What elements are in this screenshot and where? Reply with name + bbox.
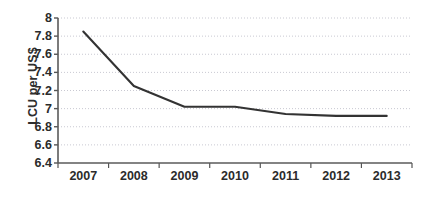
gridlines	[54, 18, 412, 163]
x-axis-tick-label: 2010	[210, 170, 261, 190]
x-axis-tick-label: 2007	[58, 170, 109, 190]
x-axis-tick-label: 2011	[260, 170, 311, 190]
x-axis-tick-label: 2008	[109, 170, 160, 190]
x-axis-tick-labels: 2007200820092010201120122013	[58, 170, 412, 190]
line-chart: LCU per US$ 6.46.66.877.27.47.67.88 2007…	[0, 0, 432, 200]
data-series-line	[83, 32, 386, 116]
x-axis-tick-label: 2013	[361, 170, 412, 190]
x-axis-tick-label: 2009	[159, 170, 210, 190]
x-axis-tick-label: 2012	[311, 170, 362, 190]
